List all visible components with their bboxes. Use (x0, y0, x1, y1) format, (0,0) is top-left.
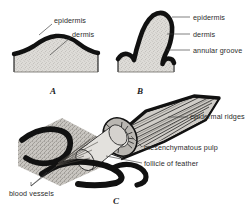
label-dermis: dermis (193, 31, 215, 38)
panel-letter-a: A (50, 86, 56, 96)
label-dermis: dermis (72, 31, 94, 38)
panel-letter-c: C (113, 196, 119, 206)
panel-c-illustration (18, 93, 219, 186)
label-blood-vessels: blood vessels (9, 190, 54, 197)
label-annular-groove: annular groove (193, 47, 242, 54)
label-epidermis: epidermis (193, 14, 225, 21)
panel-letter-b: B (137, 86, 143, 96)
label-mesenchymatous-pulp: mesenchymatous pulp (144, 144, 218, 151)
panel-b-illustration (118, 13, 174, 72)
leader-a-epidermis (39, 24, 52, 35)
label-epidermal-ridges: epidermal ridges (190, 113, 245, 120)
panel-a-dermis-tissue (14, 37, 98, 72)
panel-a-illustration (14, 36, 98, 72)
label-epidermis: epidermis (54, 17, 86, 24)
label-follicle-of-feather: follicle of feather (144, 160, 198, 167)
